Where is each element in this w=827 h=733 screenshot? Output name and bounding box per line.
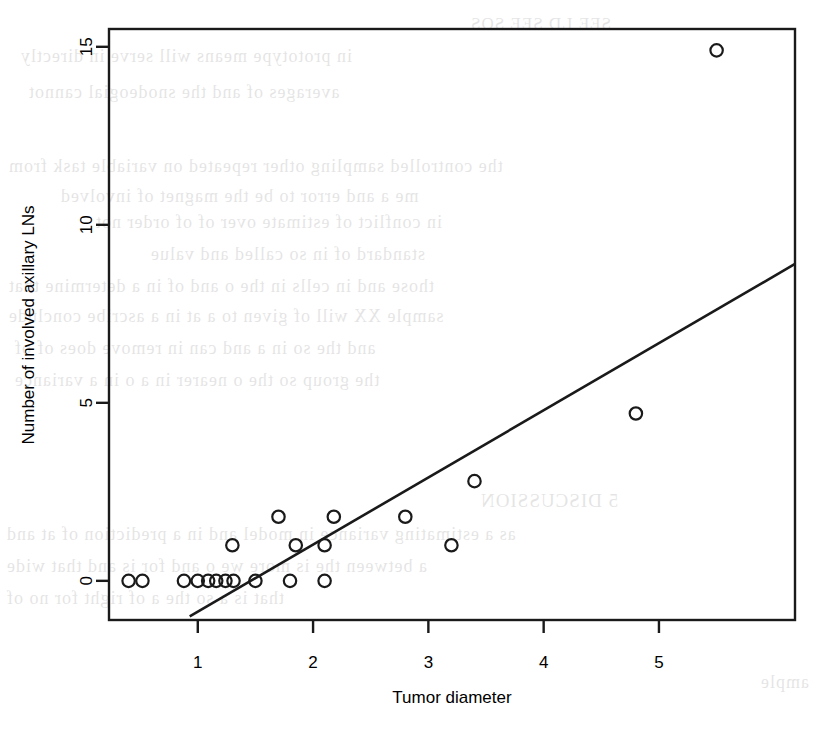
x-axis-title: Tumor diameter <box>392 688 512 707</box>
scatter-plot-figure: 051015 12345 Tumor diameter Number of in… <box>0 0 827 733</box>
y-tick-label: 5 <box>78 398 97 407</box>
data-point-marker <box>630 407 642 419</box>
y-tick-label: 0 <box>78 576 97 585</box>
x-tick-label: 3 <box>424 653 433 672</box>
x-tick-label: 1 <box>193 653 202 672</box>
x-tick-label: 4 <box>539 653 548 672</box>
x-axis-ticks <box>198 620 659 633</box>
data-point-marker <box>227 575 239 587</box>
data-point-marker <box>468 475 480 487</box>
y-axis-tick-labels: 051015 <box>78 37 97 585</box>
x-tick-label: 5 <box>654 653 663 672</box>
plot-canvas: 051015 12345 Tumor diameter Number of in… <box>0 0 827 733</box>
data-point-marker <box>445 539 457 551</box>
y-axis-title: Number of involved axillary LNs <box>19 205 38 444</box>
y-axis-ticks <box>96 47 109 581</box>
data-point-marker <box>318 575 330 587</box>
data-point-marker <box>328 511 340 523</box>
x-tick-label: 2 <box>308 653 317 672</box>
data-point-marker <box>226 539 238 551</box>
data-point-marker <box>399 511 411 523</box>
y-tick-label: 10 <box>78 215 97 234</box>
data-point-marker <box>318 539 330 551</box>
scatter-data-points <box>122 44 722 587</box>
regression-fit-line <box>190 264 795 616</box>
data-point-marker <box>290 539 302 551</box>
data-point-marker <box>710 44 722 56</box>
y-tick-label: 15 <box>78 37 97 56</box>
data-point-marker <box>178 575 190 587</box>
data-point-marker <box>272 511 284 523</box>
x-axis-tick-labels: 12345 <box>193 653 664 672</box>
data-point-marker <box>136 575 148 587</box>
data-point-marker <box>122 575 134 587</box>
data-point-marker <box>284 575 296 587</box>
